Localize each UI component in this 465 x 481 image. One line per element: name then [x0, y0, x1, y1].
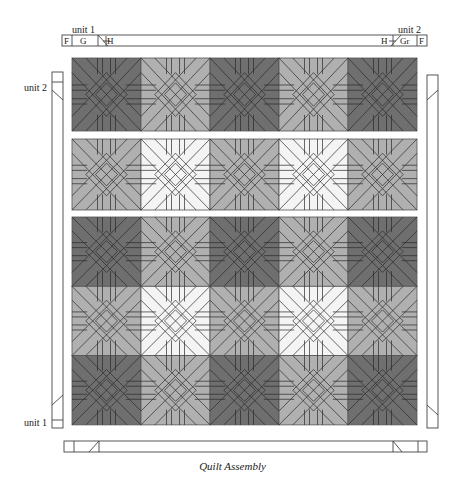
quilt-block: [141, 356, 210, 425]
bottom-border-strip: [64, 441, 427, 452]
quilt-block: [72, 286, 141, 355]
segment-f-right: F: [419, 37, 424, 46]
figure-caption: Quilt Assembly: [0, 460, 465, 472]
quilt-block: [72, 139, 141, 210]
quilt-block: [141, 139, 210, 210]
segment-gr-right: Gr: [400, 37, 410, 46]
segment-f-left: F: [64, 37, 69, 46]
quilt-block: [141, 217, 210, 286]
quilt-block: [279, 217, 348, 286]
quilt-block: [72, 58, 141, 131]
quilt-block: [348, 286, 417, 355]
quilt-block: [141, 58, 210, 131]
quilt-block: [210, 58, 279, 131]
segment-h-left: H: [107, 37, 114, 46]
right-border-strip: [427, 75, 438, 428]
quilt-block: [210, 356, 279, 425]
quilt-block: [348, 217, 417, 286]
segment-g-left: G: [80, 37, 87, 46]
quilt-block: [279, 356, 348, 425]
quilt-block: [72, 356, 141, 425]
left-unit-1-label: unit 1: [24, 418, 47, 428]
quilt-diagram-canvas: [0, 0, 465, 481]
quilt-block: [279, 58, 348, 131]
quilt-block: [210, 217, 279, 286]
left-unit-2-label: unit 2: [24, 83, 47, 93]
quilt-block: [210, 139, 279, 210]
quilt-block: [348, 356, 417, 425]
quilt-block: [141, 286, 210, 355]
quilt-block: [72, 217, 141, 286]
quilt-block: [348, 139, 417, 210]
segment-h-right: H: [381, 37, 388, 46]
quilt-block: [279, 286, 348, 355]
quilt-assembly-diagram: unit 1 unit 2 F G H H Gr F unit 2 unit 1…: [0, 0, 465, 481]
quilt-block: [279, 139, 348, 210]
top-unit-1-label: unit 1: [72, 25, 95, 35]
left-border-strip: [52, 72, 63, 428]
quilt-blocks: [72, 58, 417, 425]
top-border-strip: [62, 35, 427, 46]
quilt-block: [210, 286, 279, 355]
top-unit-2-label: unit 2: [398, 25, 421, 35]
quilt-block: [348, 58, 417, 131]
